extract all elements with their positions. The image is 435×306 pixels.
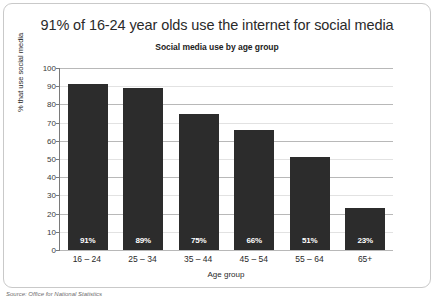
x-tick-25-34: 25 – 34 [115,254,170,264]
plot-wrapper: 100 90 80 70 60 50 40 30 20 10 0 91% 89% [41,68,393,251]
gridline-0: 0 [60,250,393,251]
chart-title: 91% of 16-24 year olds use the internet … [4,17,430,33]
bar-25-34[interactable]: 89% [123,88,163,250]
x-tick-65-plus: 65+ [337,254,392,264]
bar-data-label: 89% [136,236,151,245]
bar-slot: 66% [227,68,282,250]
y-axis-title: % that use social media [16,33,25,112]
x-tick-45-54: 45 – 54 [226,254,281,264]
bar-data-label: 51% [302,236,317,245]
bar-series: 91% 89% 75% 66% [60,68,393,250]
bar-65-plus[interactable]: 23% [345,208,385,250]
bar-data-label: 75% [191,236,206,245]
x-axis-title: Age group [59,270,393,279]
bar-slot: 91% [60,68,115,250]
bar-data-label: 66% [247,236,262,245]
source-note: Source: Office for National Statistics [6,291,102,297]
bar-slot: 51% [282,68,337,250]
chart-subtitle: Social media use by age group [4,42,430,52]
x-tick-35-44: 35 – 44 [170,254,225,264]
bar-data-label: 91% [80,236,95,245]
bar-slot: 89% [116,68,171,250]
bar-35-44[interactable]: 75% [179,114,219,251]
x-tick-16-24: 16 – 24 [59,254,114,264]
bar-data-label: 23% [358,236,373,245]
bar-slot: 75% [171,68,226,250]
x-tick-55-64: 55 – 64 [282,254,337,264]
x-axis-tick-labels: 16 – 24 25 – 34 35 – 44 45 – 54 55 – 64 … [59,254,393,264]
bar-slot: 23% [338,68,393,250]
bar-55-64[interactable]: 51% [290,157,330,250]
bar-45-54[interactable]: 66% [234,130,274,250]
plot-area: 100 90 80 70 60 50 40 30 20 10 0 91% 89% [59,68,393,251]
bar-16-24[interactable]: 91% [68,84,108,250]
chart-card: 91% of 16-24 year olds use the internet … [3,3,431,288]
